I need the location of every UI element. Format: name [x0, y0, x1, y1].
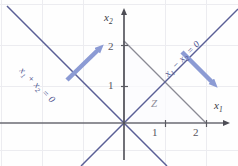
y-axis-label: x2	[104, 12, 113, 26]
constraint-line-diff	[81, 9, 238, 166]
x-axis-label: x1	[214, 100, 223, 114]
x-tick-label-2: 2	[193, 127, 199, 138]
y-tick-label-1: 1	[108, 80, 114, 91]
region-label-z: Z	[151, 98, 157, 109]
y-tick-label-2: 2	[108, 41, 114, 52]
plot-figure: x2 x1 2 1 1 2 Z x1 + x2 = 0 x1 − x2 = 0	[0, 0, 238, 166]
x-tick-label-1: 1	[152, 127, 158, 138]
normal-arrow-sum	[67, 50, 98, 80]
